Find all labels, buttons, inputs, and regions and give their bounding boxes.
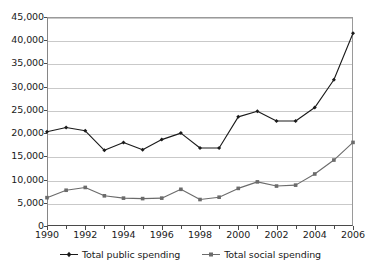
- data-point: [275, 119, 279, 123]
- data-point: [313, 172, 317, 176]
- x-tick-label: 2004: [295, 229, 335, 240]
- x-tick-label: 1990: [27, 229, 67, 240]
- x-tick-label: 1994: [104, 229, 144, 240]
- data-point: [217, 195, 221, 199]
- data-point: [122, 196, 126, 200]
- data-point: [256, 180, 260, 184]
- data-point: [64, 188, 68, 192]
- data-point: [122, 140, 126, 144]
- line-chart: 05,00010,00015,00020,00025,00030,00035,0…: [0, 0, 381, 265]
- x-tick-label: 2000: [218, 229, 258, 240]
- y-tick-label: 5,000: [2, 198, 44, 208]
- data-point: [160, 138, 164, 142]
- series-1: [45, 31, 355, 152]
- data-point: [64, 126, 68, 130]
- data-point: [275, 184, 279, 188]
- y-axis: 05,00010,00015,00020,00025,00030,00035,0…: [0, 0, 44, 265]
- legend-marker-line-square-icon: [202, 250, 220, 259]
- x-tick-label: 2006: [333, 229, 373, 240]
- y-tick-label: 15,000: [2, 151, 44, 161]
- y-tick-label: 35,000: [2, 58, 44, 68]
- legend: Total public spending Total social spend…: [0, 246, 381, 262]
- data-point: [236, 187, 240, 191]
- data-point: [141, 148, 145, 152]
- data-point: [45, 196, 49, 200]
- series-line: [47, 33, 353, 150]
- data-point: [351, 31, 355, 35]
- legend-label: Total social spending: [224, 249, 321, 260]
- x-tick-label: 1992: [65, 229, 105, 240]
- legend-label: Total public spending: [82, 249, 180, 260]
- y-tick-label: 40,000: [2, 35, 44, 45]
- data-point: [160, 196, 164, 200]
- y-tick-label: 10,000: [2, 175, 44, 185]
- x-axis: 199019921994199619982000200220042006: [0, 229, 381, 245]
- y-tick-label: 45,000: [2, 12, 44, 22]
- y-tick-label: 20,000: [2, 128, 44, 138]
- data-point: [83, 186, 87, 190]
- x-tick-label: 1996: [142, 229, 182, 240]
- series-layer: [47, 17, 353, 226]
- y-tick-label: 30,000: [2, 82, 44, 92]
- data-point: [255, 109, 259, 113]
- data-point: [179, 188, 183, 192]
- data-point: [198, 198, 202, 202]
- legend-item-total-social-spending: Total social spending: [202, 249, 321, 260]
- data-point: [351, 141, 355, 145]
- legend-marker-line-diamond-icon: [60, 250, 78, 259]
- legend-item-total-public-spending: Total public spending: [60, 249, 180, 260]
- data-point: [332, 158, 336, 162]
- data-point: [141, 197, 145, 201]
- x-tick-label: 2002: [257, 229, 297, 240]
- y-tick-label: 25,000: [2, 105, 44, 115]
- x-tick-label: 1998: [180, 229, 220, 240]
- data-point: [103, 194, 107, 198]
- data-point: [294, 183, 298, 187]
- series-line: [47, 142, 353, 199]
